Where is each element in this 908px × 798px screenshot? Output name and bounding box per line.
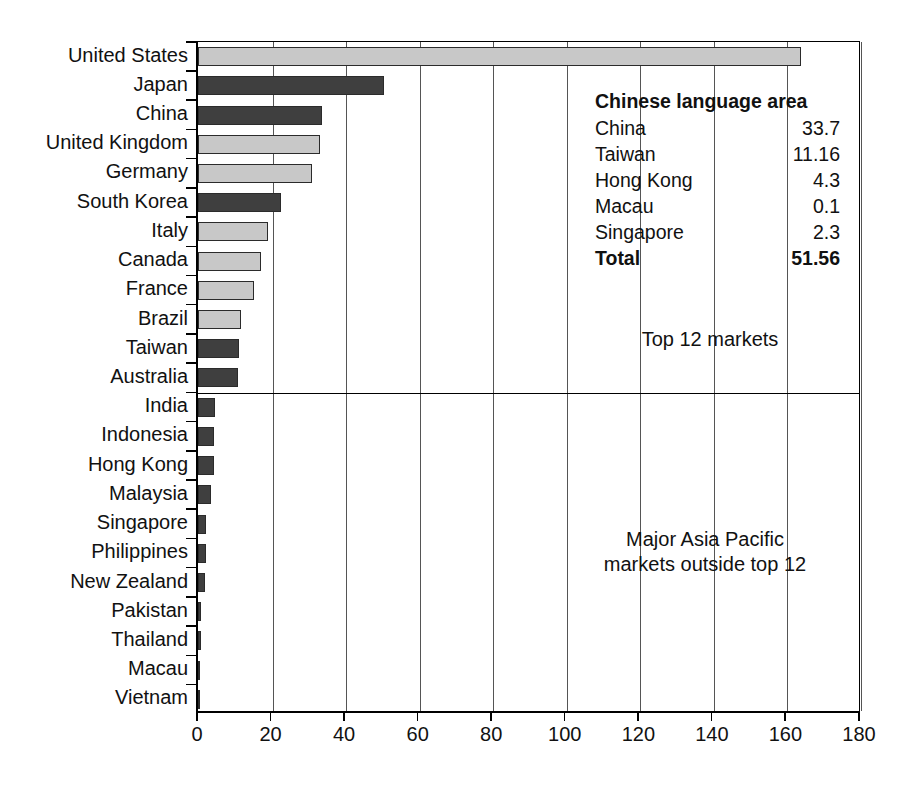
annotation-line-1: Major Asia Pacific: [545, 527, 865, 552]
x-axis-ticks: [196, 713, 862, 722]
x-axis-tick-120: [637, 713, 639, 721]
bar-hong-kong: [198, 456, 214, 475]
y-axis-label-australia: Australia: [0, 366, 188, 386]
x-axis-tick-40: [343, 713, 345, 721]
legend-row: China33.7: [595, 115, 840, 141]
x-axis-label-0: 0: [191, 722, 202, 746]
x-axis-label-60: 60: [407, 722, 429, 746]
y-axis-label-taiwan: Taiwan: [0, 337, 188, 357]
gridline-180: [861, 42, 862, 711]
bar-south-korea: [198, 193, 281, 212]
y-axis-labels: United StatesJapanChinaUnited KingdomGer…: [0, 41, 188, 713]
y-axis-label-canada: Canada: [0, 249, 188, 269]
legend-row: Macau0.1: [595, 193, 840, 219]
bar-italy: [198, 222, 268, 241]
chinese-language-area-legend: Chinese language area China33.7Taiwan11.…: [595, 88, 840, 271]
x-axis-tick-180: [858, 713, 860, 721]
bar-row: [198, 393, 859, 422]
bar-row: [198, 685, 859, 714]
y-axis-label-france: France: [0, 278, 188, 298]
y-axis-label-malaysia: Malaysia: [0, 483, 188, 503]
legend-row-total: Total 51.56: [595, 245, 840, 271]
bar-singapore: [198, 515, 206, 534]
y-axis-label-pakistan: Pakistan: [0, 600, 188, 620]
legend-row-name: Singapore: [595, 219, 684, 245]
x-axis-label-180: 180: [842, 722, 875, 746]
bar-row: [198, 451, 859, 480]
y-axis-label-united-kingdom: United Kingdom: [0, 132, 188, 152]
bar-taiwan: [198, 339, 239, 358]
bar-japan: [198, 76, 384, 95]
y-axis-label-indonesia: Indonesia: [0, 424, 188, 444]
legend-row-value: 0.1: [813, 193, 840, 219]
x-axis-labels: 020406080100120140160180: [0, 722, 908, 752]
x-axis-tick-0: [196, 713, 198, 721]
y-axis-label-macau: Macau: [0, 658, 188, 678]
x-axis-tick-100: [564, 713, 566, 721]
legend-row-value: 33.7: [802, 115, 840, 141]
legend-row-value: 4.3: [813, 167, 840, 193]
bar-thailand: [198, 631, 201, 650]
group-divider-line: [198, 393, 859, 395]
x-axis-tick-20: [270, 713, 272, 721]
bar-china: [198, 106, 322, 125]
chart-root: United StatesJapanChinaUnited KingdomGer…: [0, 0, 908, 798]
legend-total-value: 51.56: [791, 245, 840, 271]
y-axis-label-vietnam: Vietnam: [0, 687, 188, 707]
x-axis-label-40: 40: [333, 722, 355, 746]
bar-row: [198, 363, 859, 392]
legend-total-label: Total: [595, 245, 640, 271]
x-axis-label-120: 120: [622, 722, 655, 746]
x-axis-label-80: 80: [480, 722, 502, 746]
y-axis-label-singapore: Singapore: [0, 512, 188, 532]
annotation-top-12-markets: Top 12 markets: [560, 327, 860, 352]
legend-row-name: Hong Kong: [595, 167, 693, 193]
y-axis-label-south-korea: South Korea: [0, 191, 188, 211]
y-axis-label-germany: Germany: [0, 161, 188, 181]
legend-row-value: 2.3: [813, 219, 840, 245]
bar-brazil: [198, 310, 241, 329]
bar-row: [198, 480, 859, 509]
bar-canada: [198, 252, 261, 271]
bar-united-kingdom: [198, 135, 320, 154]
legend-row-name: Taiwan: [595, 141, 656, 167]
x-axis-label-100: 100: [548, 722, 581, 746]
legend-row-name: China: [595, 115, 646, 141]
legend-rows: China33.7Taiwan11.16Hong Kong4.3Macau0.1…: [595, 115, 840, 245]
bar-pakistan: [198, 602, 201, 621]
y-axis-label-thailand: Thailand: [0, 629, 188, 649]
y-axis-label-italy: Italy: [0, 220, 188, 240]
y-axis-label-china: China: [0, 103, 188, 123]
legend-title: Chinese language area: [595, 88, 840, 114]
bar-india: [198, 398, 215, 417]
y-axis-label-philippines: Philippines: [0, 541, 188, 561]
bar-row: [198, 626, 859, 655]
legend-row-value: 11.16: [793, 141, 840, 167]
y-axis-label-india: India: [0, 395, 188, 415]
bar-row: [198, 656, 859, 685]
legend-row: Hong Kong4.3: [595, 167, 840, 193]
bar-australia: [198, 368, 238, 387]
y-axis-label-new-zealand: New Zealand: [0, 571, 188, 591]
y-axis-label-japan: Japan: [0, 74, 188, 94]
x-axis-tick-140: [711, 713, 713, 721]
x-axis-label-160: 160: [769, 722, 802, 746]
bar-row: [198, 42, 859, 71]
bar-row: [198, 422, 859, 451]
bar-row: [198, 597, 859, 626]
bar-new-zealand: [198, 573, 205, 592]
bar-france: [198, 281, 254, 300]
x-axis-label-140: 140: [695, 722, 728, 746]
bar-malaysia: [198, 485, 211, 504]
legend-row: Taiwan11.16: [595, 141, 840, 167]
bar-indonesia: [198, 427, 214, 446]
x-axis-tick-160: [784, 713, 786, 721]
annotation-asia-pacific-markets: Major Asia Pacific markets outside top 1…: [545, 527, 865, 577]
bar-row: [198, 276, 859, 305]
y-axis-label-united-states: United States: [0, 45, 188, 65]
bar-united-states: [198, 47, 801, 66]
x-axis-label-20: 20: [259, 722, 281, 746]
x-axis-tick-80: [490, 713, 492, 721]
x-axis-tick-60: [417, 713, 419, 721]
annotation-line-2: markets outside top 12: [545, 552, 865, 577]
